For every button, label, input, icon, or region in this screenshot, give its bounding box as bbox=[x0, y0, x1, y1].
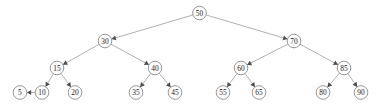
tree-node-10[interactable]: 10 bbox=[35, 86, 49, 100]
tree-node-20[interactable]: 20 bbox=[68, 86, 82, 100]
node-label: 35 bbox=[132, 88, 140, 97]
tree-node-90[interactable]: 90 bbox=[354, 86, 368, 100]
tree-node-50[interactable]: 50 bbox=[193, 6, 207, 20]
tree-edge bbox=[63, 44, 99, 64]
tree-node-40[interactable]: 40 bbox=[148, 61, 162, 75]
node-label: 20 bbox=[71, 88, 79, 97]
edge-arrowhead-icon bbox=[227, 82, 232, 87]
edge-arrowhead-icon bbox=[353, 82, 358, 87]
edge-arrowhead-icon bbox=[27, 90, 31, 95]
node-label: 70 bbox=[290, 37, 298, 46]
tree-node-85[interactable]: 85 bbox=[337, 61, 351, 75]
node-label: 55 bbox=[219, 88, 227, 97]
binary-tree-diagram: 5030701540608551020354555658090 bbox=[0, 0, 380, 111]
tree-canvas: 5030701540608551020354555658090 bbox=[0, 0, 380, 111]
node-label: 30 bbox=[101, 37, 109, 46]
edge-arrowhead-icon bbox=[283, 35, 288, 40]
tree-node-60[interactable]: 60 bbox=[234, 61, 248, 75]
node-label: 90 bbox=[357, 88, 365, 97]
tree-node-5[interactable]: 5 bbox=[13, 86, 27, 100]
tree-node-45[interactable]: 45 bbox=[168, 86, 182, 100]
edges-layer bbox=[27, 15, 357, 93]
tree-node-35[interactable]: 35 bbox=[129, 86, 143, 100]
tree-node-70[interactable]: 70 bbox=[287, 34, 301, 48]
edge-arrowhead-icon bbox=[140, 82, 145, 87]
node-label: 15 bbox=[53, 64, 61, 73]
node-label: 5 bbox=[18, 88, 22, 97]
tree-edge bbox=[111, 44, 149, 65]
node-label: 40 bbox=[151, 64, 159, 73]
node-label: 10 bbox=[38, 88, 46, 97]
tree-node-65[interactable]: 65 bbox=[252, 86, 266, 100]
tree-node-30[interactable]: 30 bbox=[98, 34, 112, 48]
node-label: 65 bbox=[255, 88, 263, 97]
edge-arrowhead-icon bbox=[112, 35, 117, 40]
node-label: 50 bbox=[196, 9, 204, 18]
node-label: 85 bbox=[340, 64, 348, 73]
nodes-layer: 5030701540608551020354555658090 bbox=[13, 6, 368, 99]
tree-node-80[interactable]: 80 bbox=[316, 86, 330, 100]
tree-edge bbox=[206, 15, 287, 39]
edge-arrowhead-icon bbox=[66, 82, 71, 87]
node-label: 80 bbox=[319, 88, 327, 97]
tree-edge bbox=[247, 44, 288, 65]
tree-node-15[interactable]: 15 bbox=[50, 61, 64, 75]
node-label: 60 bbox=[237, 64, 245, 73]
edge-arrowhead-icon bbox=[250, 82, 255, 87]
node-label: 45 bbox=[171, 88, 179, 97]
tree-edge bbox=[112, 15, 193, 39]
tree-edge bbox=[300, 44, 338, 65]
tree-node-55[interactable]: 55 bbox=[216, 86, 230, 100]
